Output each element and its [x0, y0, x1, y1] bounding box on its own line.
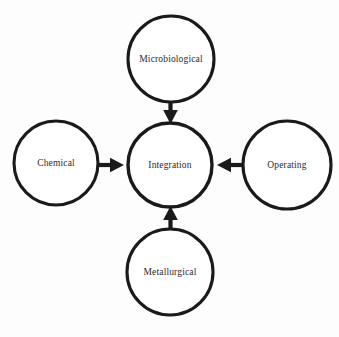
diagram-svg: [0, 0, 339, 337]
node-circle-chemical[interactable]: [14, 121, 98, 205]
arrow-metallurgical-to-integration: [163, 206, 178, 230]
arrow-head-left: [110, 158, 124, 172]
node-circle-operating[interactable]: [243, 121, 331, 209]
arrow-chemical-to-integration: [99, 158, 124, 172]
arrow-microbiological-to-integration: [163, 100, 178, 124]
node-circle-microbiological[interactable]: [128, 16, 214, 102]
arrow-head-right: [217, 158, 231, 172]
node-circle-metallurgical[interactable]: [127, 229, 213, 315]
node-circle-integration[interactable]: [128, 123, 212, 207]
arrow-operating-to-integration: [217, 158, 243, 172]
diagram-canvas: Microbiological Chemical Operating Metal…: [0, 0, 339, 337]
